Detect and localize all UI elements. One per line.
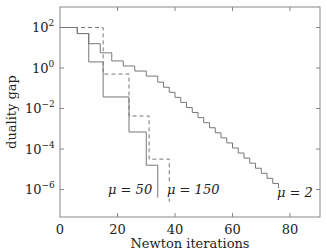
x-axis-label: Newton iterations xyxy=(130,236,249,251)
chart: 0 20 40 60 80 102 100 10−2 10−4 10−6 New… xyxy=(0,0,327,251)
x-tick-20: 20 xyxy=(109,222,126,237)
y-tick-1e-2: 10−2 xyxy=(25,99,55,116)
x-tick-40: 40 xyxy=(167,222,184,237)
x-tick-80: 80 xyxy=(282,222,299,237)
y-tick-1e2: 102 xyxy=(32,18,54,35)
series-line-2 xyxy=(60,28,169,202)
series-line-0 xyxy=(60,28,296,192)
y-tick-1e-6: 10−6 xyxy=(25,180,55,197)
y-axis-label: duality gap xyxy=(4,75,19,149)
annotation-mu-150: μ = 150 xyxy=(167,182,219,197)
y-tick-labels: 102 100 10−2 10−4 10−6 xyxy=(25,18,55,197)
y-tick-1e0: 100 xyxy=(32,59,55,76)
annotation-mu-50: μ = 50 xyxy=(108,182,152,197)
x-tick-0: 0 xyxy=(56,222,64,237)
annotation-mu-2: μ = 2 xyxy=(277,185,313,200)
x-tick-labels: 0 20 40 60 80 xyxy=(56,222,298,237)
x-tick-60: 60 xyxy=(224,222,241,237)
y-tick-1e-4: 10−4 xyxy=(25,140,55,157)
series-layer xyxy=(60,28,296,202)
y-ticks xyxy=(60,28,320,190)
